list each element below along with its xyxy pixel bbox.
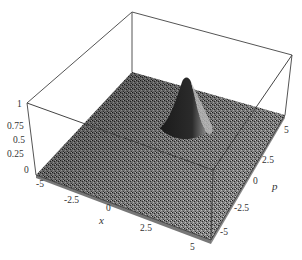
x-tick-neg2.5: -2.5 bbox=[64, 195, 79, 205]
z-tick-0.75: 0.75 bbox=[7, 121, 24, 131]
p-axis-label: p bbox=[272, 181, 278, 192]
surface bbox=[36, 72, 285, 244]
z-tick-1: 1 bbox=[17, 99, 22, 109]
z-tick-0.5: 0.5 bbox=[13, 135, 25, 145]
p-tick-neg5: -5 bbox=[220, 227, 228, 237]
p-tick-2.5: 2.5 bbox=[262, 155, 274, 165]
z-tick-0: 0 bbox=[24, 165, 29, 175]
x-tick-neg5: -5 bbox=[36, 179, 44, 189]
p-tick-0: 0 bbox=[253, 176, 258, 186]
p-tick-5: 5 bbox=[284, 125, 289, 135]
z-tick-0.25: 0.25 bbox=[7, 149, 24, 159]
surface-plot bbox=[0, 0, 302, 260]
x-tick-5: 5 bbox=[190, 242, 195, 252]
x-tick-0: 0 bbox=[106, 203, 111, 213]
x-tick-2.5: 2.5 bbox=[140, 223, 152, 233]
x-axis-label: x bbox=[99, 215, 104, 226]
p-tick-neg2.5: -2.5 bbox=[234, 203, 249, 213]
